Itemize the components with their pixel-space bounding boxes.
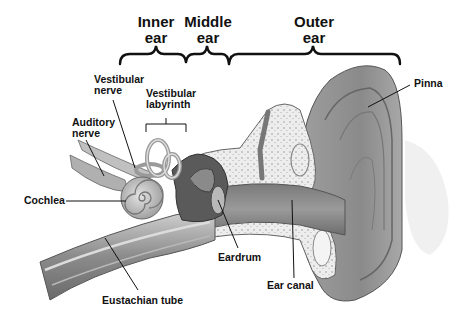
section-label-line: ear bbox=[130, 30, 182, 46]
section-label-inner-ear: Inner ear bbox=[130, 14, 182, 46]
label-ear-canal: Ear canal bbox=[267, 280, 314, 291]
ear-illustration bbox=[0, 0, 468, 320]
label-line: labyrinth bbox=[146, 99, 196, 110]
section-label-line: ear bbox=[288, 30, 340, 46]
label-line: nerve bbox=[72, 128, 115, 139]
label-vestibular-labyrinth: Vestibular labyrinth bbox=[146, 88, 196, 110]
section-label-line: Middle bbox=[180, 14, 236, 30]
section-label-line: Inner bbox=[130, 14, 182, 30]
section-label-middle-ear: Middle ear bbox=[180, 14, 236, 46]
section-label-line: ear bbox=[180, 30, 236, 46]
label-line: nerve bbox=[94, 85, 144, 96]
ear-anatomy-diagram: Inner ear Middle ear Outer ear Vestibula… bbox=[0, 0, 468, 320]
section-brackets bbox=[120, 46, 400, 64]
label-eustachian-tube: Eustachian tube bbox=[102, 295, 183, 306]
section-label-line: Outer bbox=[288, 14, 340, 30]
label-auditory-nerve: Auditory nerve bbox=[72, 117, 115, 139]
eustachian-tube-shape bbox=[40, 212, 215, 301]
label-vestibular-nerve: Vestibular nerve bbox=[94, 74, 144, 96]
section-label-outer-ear: Outer ear bbox=[288, 14, 340, 46]
label-pinna: Pinna bbox=[414, 78, 443, 89]
label-eardrum: Eardrum bbox=[218, 252, 261, 263]
cochlea-shape bbox=[121, 177, 163, 219]
label-cochlea: Cochlea bbox=[24, 195, 65, 206]
